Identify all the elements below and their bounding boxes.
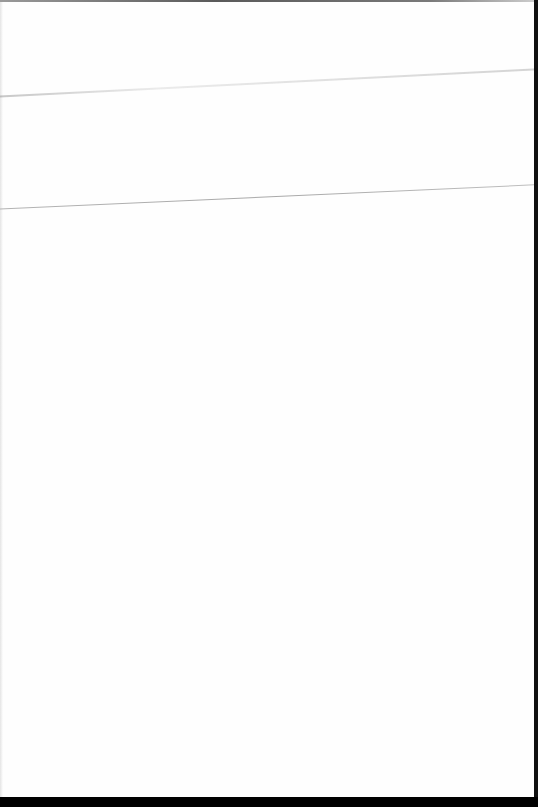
- page-left-shadow: [0, 0, 3, 797]
- scan-bottom-border: [0, 797, 538, 807]
- paper-crease-lower: [0, 184, 534, 210]
- scan-top-edge: [0, 0, 538, 2]
- paper-crease-upper: [0, 68, 534, 98]
- blank-document-page: [0, 0, 534, 797]
- scan-right-border: [534, 0, 538, 807]
